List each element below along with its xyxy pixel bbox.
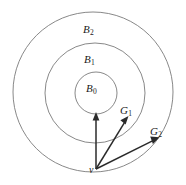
label-b1-subscript: 1	[91, 58, 95, 67]
arrow-head-b0	[93, 112, 100, 121]
label-b0-base: B	[86, 82, 93, 94]
figure-container: B2 B1 B0 G1 G2 v	[0, 0, 186, 185]
label-b0-subscript: 0	[93, 87, 97, 96]
label-g2-subscript: 2	[158, 130, 162, 139]
label-b2-base: B	[83, 23, 90, 35]
label-b0: B0	[86, 83, 96, 94]
label-g1-base: G	[120, 104, 128, 116]
label-g1: G1	[120, 105, 132, 116]
label-g2: G2	[150, 126, 162, 137]
label-b2: B2	[83, 24, 93, 35]
label-g1-subscript: 1	[128, 109, 132, 118]
label-b2-subscript: 2	[90, 28, 94, 37]
label-b1-base: B	[84, 53, 91, 65]
arrow-v-to-b0	[93, 112, 100, 169]
label-v: v	[89, 165, 93, 175]
label-b1: B1	[84, 54, 94, 65]
label-g2-base: G	[150, 125, 158, 137]
label-v-base: v	[89, 164, 93, 175]
